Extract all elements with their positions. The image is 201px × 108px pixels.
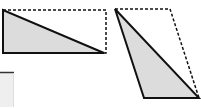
obtuse-triangle — [115, 9, 199, 98]
diagram-canvas — [0, 0, 201, 107]
right-triangle — [3, 10, 104, 53]
rectangle-figure — [3, 10, 106, 53]
parallelogram-figure — [115, 9, 199, 98]
partial-grey-box — [0, 73, 14, 108]
